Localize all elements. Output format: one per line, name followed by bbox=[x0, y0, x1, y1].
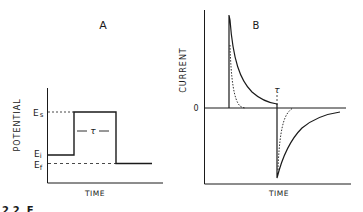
label-es: Es bbox=[33, 108, 44, 119]
panel-a-ylabel: POTENTIAL bbox=[13, 98, 22, 151]
potential-step-waveform bbox=[48, 112, 152, 164]
panel-a-title: A bbox=[99, 19, 107, 32]
panel-a-xlabel: TIME bbox=[84, 189, 105, 198]
figure: A POTENTIAL Es Ei Ef τ TIME B 0 CURRENT bbox=[0, 0, 363, 212]
label-ei: Ei bbox=[34, 149, 42, 160]
reverse-current-transient bbox=[277, 108, 340, 178]
panel-b-xlabel: TIME bbox=[268, 189, 289, 198]
label-ef: Ef bbox=[34, 160, 43, 172]
panel-b-title: B bbox=[253, 20, 260, 31]
panel-a-tau: τ bbox=[90, 126, 96, 136]
panel-a: A POTENTIAL Es Ei Ef τ TIME bbox=[13, 19, 163, 198]
reverse-current-dotted bbox=[278, 108, 293, 170]
zero-label: 0 bbox=[193, 104, 198, 113]
panel-b: B 0 CURRENT τ TIME bbox=[179, 10, 351, 198]
panel-b-ylabel: CURRENT bbox=[179, 47, 188, 92]
forward-current-dotted bbox=[230, 45, 246, 108]
figure-caption-fragment: 2.2 F bbox=[2, 205, 34, 212]
panel-b-tau: τ bbox=[274, 85, 280, 95]
